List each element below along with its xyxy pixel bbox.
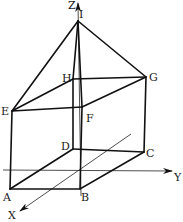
label-f: F xyxy=(86,112,94,125)
label-d: D xyxy=(61,140,70,153)
edge-cg xyxy=(144,77,146,152)
edge-fg xyxy=(82,77,146,107)
label-c: C xyxy=(146,147,154,160)
edge-ie xyxy=(12,21,78,111)
edge-ef xyxy=(12,107,82,111)
axis-label-y: Y xyxy=(173,171,182,184)
y-axis xyxy=(3,170,172,171)
geometry-diagram: I H G E F D C A B Z Y X xyxy=(0,0,183,222)
label-g: G xyxy=(149,71,158,84)
edge-ad xyxy=(10,149,73,189)
edge-bf xyxy=(80,107,82,189)
label-i: I xyxy=(79,8,83,21)
edge-ae xyxy=(10,111,12,189)
axis-label-x: X xyxy=(8,209,16,222)
label-a: A xyxy=(2,191,12,204)
label-e: E xyxy=(1,105,9,118)
label-b: B xyxy=(81,191,89,204)
axis-label-z: Z xyxy=(68,0,76,12)
label-h: H xyxy=(62,72,72,85)
edge-ih xyxy=(73,21,78,79)
edge-ig xyxy=(78,21,146,77)
edge-hg xyxy=(73,77,146,79)
